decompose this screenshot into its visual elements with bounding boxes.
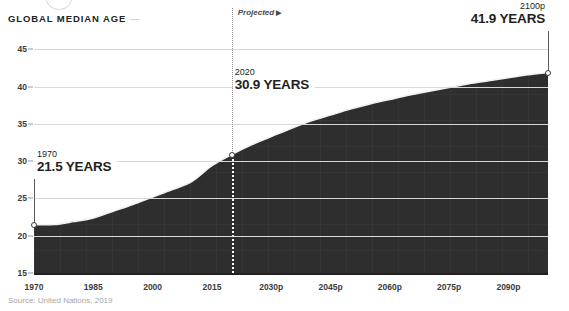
annotation-value-label: 21.5 YEARS [37, 160, 111, 174]
y-axis-tick-label: 20 [18, 231, 27, 241]
title-dash: — [130, 13, 140, 24]
annotation-value-label: 41.9 YEARS [471, 12, 545, 26]
y-axis-tick-label: 45 [18, 44, 27, 54]
annotation-leader-line [34, 179, 35, 225]
y-axis-tick-mark [28, 198, 33, 199]
gridline-y-45 [34, 49, 548, 50]
page-title: GLOBAL MEDIAN AGE — [8, 13, 139, 24]
data-point-marker [545, 70, 551, 76]
y-axis-tick-label: 35 [18, 119, 27, 129]
x-axis-tick-label: 1985 [84, 282, 103, 292]
annotation-callout: 197021.5 YEARS [37, 149, 111, 174]
gridline-y-25 [34, 198, 548, 199]
y-axis-tick-mark [28, 235, 33, 236]
data-point-marker [31, 222, 37, 228]
x-axis-tick-label: 2090p [496, 282, 520, 292]
annotation-callout: 202030.9 YEARS [235, 67, 309, 92]
y-axis-tick-mark [28, 86, 33, 87]
decorative-arc [46, 0, 72, 10]
y-axis-tick-mark [28, 49, 33, 50]
x-axis-tick-label: 2000 [143, 282, 162, 292]
x-axis-tick-label: 1970 [25, 282, 44, 292]
y-axis-tick-label: 15 [18, 268, 27, 278]
x-axis-tick-label: 2030p [259, 282, 283, 292]
play-arrow-icon: ▶ [274, 9, 281, 16]
gridline-y-15 [34, 273, 548, 275]
annotation-year-label: 2100p [471, 1, 545, 12]
chart-plot-area: 1520253035404519701985200020152030p2045p… [34, 42, 548, 273]
y-axis-tick-label: 40 [18, 82, 27, 92]
data-point-marker [229, 152, 235, 158]
projected-label: Projected ▶ [238, 8, 281, 17]
source-caption: Source: United Nations, 2019 [8, 296, 113, 305]
chart-title-text: GLOBAL MEDIAN AGE [8, 13, 126, 24]
y-axis-tick-mark [28, 273, 33, 274]
projected-divider-line-over-fill [232, 155, 234, 273]
x-axis-tick-label: 2015 [202, 282, 221, 292]
annotation-callout: 2100p41.9 YEARS [471, 1, 545, 26]
annotation-year-label: 2020 [235, 67, 309, 78]
gridline-y-35 [34, 124, 548, 125]
y-axis-tick-mark [28, 123, 33, 124]
projected-label-text: Projected [238, 8, 274, 17]
y-axis-tick-label: 25 [18, 193, 27, 203]
annotation-year-label: 1970 [37, 149, 111, 160]
annotation-value-label: 30.9 YEARS [235, 78, 309, 92]
y-axis-tick-label: 30 [18, 156, 27, 166]
gridline-y-20 [34, 236, 548, 237]
y-axis-tick-mark [28, 161, 33, 162]
annotation-leader-line [548, 31, 549, 73]
x-axis-tick-label: 2075p [437, 282, 461, 292]
x-axis-tick-label: 2060p [378, 282, 402, 292]
x-axis-tick-label: 2045p [318, 282, 342, 292]
